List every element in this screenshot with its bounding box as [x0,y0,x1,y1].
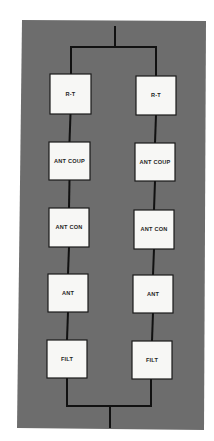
left-connector-line [69,180,70,208]
block-diagram: R-TANT COUPANT CONANTFILT R-TANT COUPANT… [0,0,214,441]
left-block-filt: FILT [47,340,87,378]
right-connector-line [155,115,156,143]
block-label: ANT CON [56,224,83,230]
left-connector-line [68,247,69,274]
block-label: FILT [146,357,159,363]
right-connector-line [152,313,153,341]
diagram-background-panel [17,20,206,430]
left-block-r-t: R-T [50,74,91,114]
block-label: ANT CON [141,226,168,232]
right-block-ant-con: ANT CON [134,210,174,249]
left-block-ant: ANT [48,274,88,312]
right-connector-line [154,181,155,210]
right-connector-line [153,249,154,275]
block-label: ANT COUP [140,159,171,165]
left-block-ant-coup: ANT COUP [49,142,90,180]
block-label: R-T [151,92,161,98]
block-label: R-T [66,91,76,97]
left-connector-line [67,312,68,340]
right-block-ant: ANT [133,275,173,313]
left-block-ant-con: ANT CON [49,208,89,247]
right-block-r-t: R-T [136,76,176,115]
left-connector-line [70,114,71,142]
block-label: ANT COUP [54,158,85,164]
right-block-ant-coup: ANT COUP [135,143,175,181]
block-label: FILT [61,356,74,362]
block-label: ANT [62,290,74,296]
right-block-filt: FILT [132,341,172,379]
block-label: ANT [147,291,159,297]
